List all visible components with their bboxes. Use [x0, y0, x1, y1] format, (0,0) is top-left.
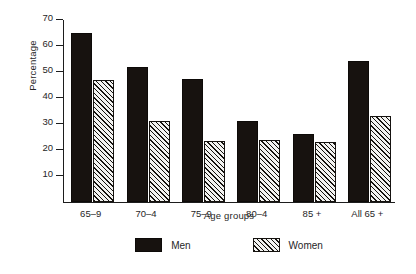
legend-label: Men [171, 240, 190, 251]
bar-women [259, 140, 280, 202]
bar-women [315, 142, 336, 202]
bar-men [127, 67, 148, 202]
legend-swatch-women-icon [253, 238, 280, 252]
x-axis-title: Age groups [63, 210, 395, 221]
bar-chart-figure: Percentage 10203040506070 65–970–475–980… [0, 0, 416, 274]
bar-women [149, 121, 170, 202]
y-axis-tick: 60 [56, 45, 63, 46]
plot-area: 10203040506070 65–970–475–980–485 +All 6… [63, 20, 395, 202]
bar-men [71, 33, 92, 202]
y-axis-tick-label: 60 [42, 38, 53, 49]
bar-men [182, 79, 203, 203]
legend-item-men: Men [135, 238, 190, 252]
x-axis-line [63, 202, 395, 203]
bar-women [370, 116, 391, 202]
y-axis-tick-label: 20 [42, 142, 53, 153]
bar-group [71, 20, 114, 202]
y-axis-tick-label: 40 [42, 90, 53, 101]
bar-women [93, 80, 114, 202]
chart-legend: MenWomen [63, 238, 395, 252]
y-axis-tick: 50 [56, 71, 63, 72]
y-axis-tick: 40 [56, 97, 63, 98]
legend-item-women: Women [253, 238, 323, 252]
legend-label: Women [289, 240, 323, 251]
bar-men [293, 134, 314, 202]
y-axis-tick: 20 [56, 149, 63, 150]
bar-group [348, 20, 391, 202]
bar-men [237, 121, 258, 202]
y-axis-title: Percentage [27, 0, 38, 136]
legend-swatch-men-icon [135, 238, 162, 252]
y-axis-tick-label: 30 [42, 116, 53, 127]
bar-group [182, 20, 225, 202]
bar-men [348, 61, 369, 202]
y-axis-tick: 70 [56, 19, 63, 20]
y-axis-tick-label: 70 [42, 12, 53, 23]
y-axis-tick: 10 [56, 175, 63, 176]
y-axis-tick-label: 50 [42, 64, 53, 75]
bar-group [293, 20, 336, 202]
y-axis-tick: 30 [56, 123, 63, 124]
bar-group [237, 20, 280, 202]
y-axis-line [63, 20, 64, 202]
bar-group [127, 20, 170, 202]
bar-women [204, 141, 225, 202]
y-axis-tick-label: 10 [42, 168, 53, 179]
